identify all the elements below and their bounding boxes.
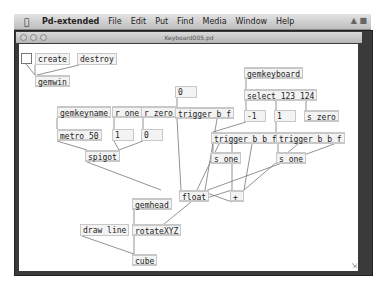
draw-line-message[interactable]: draw line: [80, 224, 129, 236]
send-one-object-1[interactable]: s one: [211, 152, 241, 164]
menu-window[interactable]: Window: [236, 17, 268, 26]
gemwin-object[interactable]: gemwin: [35, 75, 70, 87]
spigot-object[interactable]: spigot: [85, 150, 120, 162]
number-box-1[interactable]: 1: [112, 129, 134, 141]
trigger-bbf-object-2[interactable]: trigger b b f: [276, 132, 345, 144]
menu-bar:  Pd-extended File Edit Put Find Media W…: [14, 14, 371, 30]
gemwin-toggle[interactable]: [21, 53, 32, 64]
gemkeyname-object[interactable]: gemkeyname: [57, 106, 111, 118]
resize-handle-icon[interactable]: ⇲: [349, 262, 357, 270]
float-object[interactable]: float: [179, 190, 209, 202]
number-box-top-0[interactable]: 0: [175, 86, 197, 98]
gemkeyboard-object[interactable]: gemkeyboard: [244, 67, 303, 79]
receive-zero-object[interactable]: r zero: [141, 106, 176, 118]
trigger-bbf-object-1[interactable]: trigger b b f: [211, 132, 280, 144]
apple-icon[interactable]: : [24, 17, 34, 27]
send-zero-object[interactable]: s zero: [304, 110, 339, 122]
menu-edit[interactable]: Edit: [131, 17, 147, 26]
select-object[interactable]: select 123 124: [244, 89, 317, 101]
cube-object[interactable]: cube: [132, 254, 157, 266]
destroy-message[interactable]: destroy: [77, 53, 117, 65]
number-box-0[interactable]: 0: [141, 129, 163, 141]
status-icons: ▲ ■: [351, 16, 367, 25]
create-message[interactable]: create: [35, 53, 70, 65]
metro-object[interactable]: metro 50: [57, 129, 102, 141]
patch-canvas[interactable]: create destroy gemwin gemkeyname r one r…: [19, 44, 358, 271]
menu-file[interactable]: File: [108, 17, 121, 26]
trigger-bf-object[interactable]: trigger b f: [175, 107, 234, 119]
title-bar[interactable]: Keyboard005.pd: [16, 32, 362, 43]
patch-window: Keyboard005.pd: [14, 30, 373, 276]
menu-put[interactable]: Put: [155, 17, 168, 26]
receive-one-object[interactable]: r one: [112, 106, 142, 118]
number-box-pos1[interactable]: 1: [274, 110, 296, 122]
plus-object[interactable]: +: [230, 190, 244, 202]
menu-find[interactable]: Find: [177, 17, 193, 26]
menu-help[interactable]: Help: [276, 17, 294, 26]
menu-pd-extended[interactable]: Pd-extended: [42, 17, 99, 26]
send-one-object-2[interactable]: s one: [276, 152, 306, 164]
menu-media[interactable]: Media: [203, 17, 227, 26]
gemhead-object[interactable]: gemhead: [132, 198, 172, 210]
number-box-neg1[interactable]: -1: [244, 110, 266, 122]
window-title: Keyboard005.pd: [16, 34, 362, 41]
rotatexyz-object[interactable]: rotateXYZ: [132, 224, 181, 236]
